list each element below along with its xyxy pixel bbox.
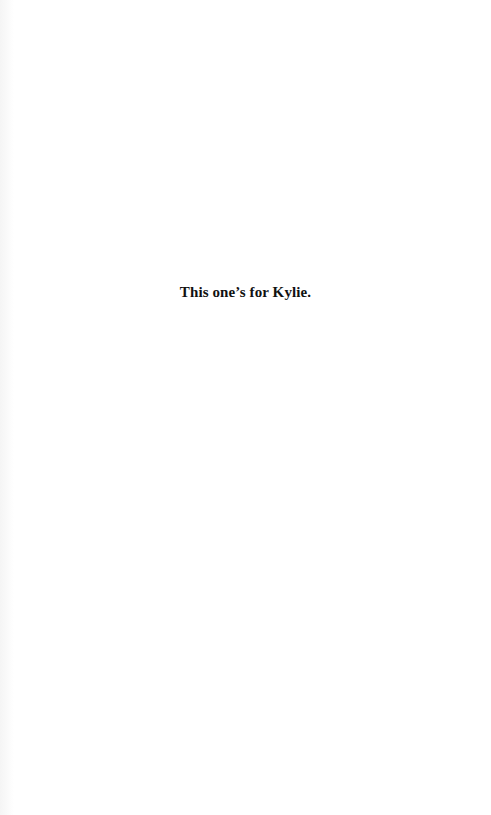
- dedication-text: This one’s for Kylie.: [0, 284, 491, 301]
- book-page: This one’s for Kylie.: [0, 0, 491, 815]
- gutter-shadow: [0, 0, 14, 815]
